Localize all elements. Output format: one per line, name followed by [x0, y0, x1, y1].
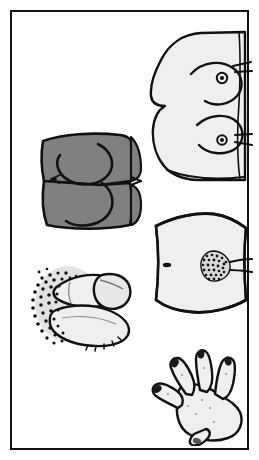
- buttocks-upper-slab: [42, 134, 134, 185]
- scrotum-hair-ticks: [86, 337, 122, 351]
- torso-hem-line: [167, 170, 243, 179]
- lower-breast-contour: [197, 116, 242, 153]
- figure-buttocks: Buttocks, posterior view: [38, 129, 148, 233]
- lower-skin-folds: [235, 134, 252, 145]
- scrotum-crease: [62, 317, 116, 324]
- figure-torso-breasts-label: Female torso, breast profile view: [145, 30, 146, 31]
- hand-finger-middle: [196, 350, 212, 392]
- hand-palm: [177, 384, 242, 440]
- abdomen-bottom-contour: [156, 300, 246, 312]
- pubic-halo: [35, 266, 101, 342]
- inguinal-crease-lines: [230, 259, 252, 272]
- abdomen-left-edge: [156, 226, 158, 300]
- hand-finger-ring: [170, 358, 194, 395]
- figure-hand: Left hand, dorsal view with fingers spre…: [148, 342, 250, 446]
- upper-breast-contour: [191, 63, 242, 105]
- pubic-hair-patch: [201, 251, 230, 281]
- abdomen-body-shape: [156, 214, 246, 313]
- shaft-fold-line: [69, 282, 71, 303]
- gluteal-cleft-lower: [66, 183, 112, 226]
- figure-abdomen-pubis: Lower abdomen with pubic region: [144, 208, 254, 320]
- buttocks-crease-mark: [51, 175, 60, 183]
- buttocks-flank: [131, 137, 141, 225]
- glans: [94, 274, 131, 309]
- figure-abdomen-pubis-label: Lower abdomen with pubic region: [144, 208, 145, 209]
- hand-thumb: [190, 429, 210, 446]
- umbilicus-navel: [163, 263, 171, 267]
- panel-title: Anatomical Illustration Panel: [0, 0, 1, 1]
- panel-frame: Female torso, breast profile view: [10, 10, 249, 450]
- lower-nipple: [217, 135, 227, 145]
- figure-male-genitalia: Male genitalia with pubic hair: [26, 256, 150, 354]
- torso-body-shape: [151, 32, 245, 180]
- penis-shaft: [54, 275, 116, 307]
- scrotum: [50, 306, 129, 347]
- hand-knuckle-marks: [167, 367, 227, 423]
- gluteal-cleft-upper: [57, 144, 112, 184]
- figure-torso-breasts: Female torso, breast profile view: [145, 30, 253, 182]
- abdomen-right-edge: [245, 228, 247, 300]
- torso-lateral-edge: [238, 32, 240, 180]
- glans-ridge: [100, 280, 123, 289]
- figure-panel: Anatomical Illustration Panel Female tor…: [0, 0, 259, 460]
- figure-hand-label: Left hand, dorsal view with fingers spre…: [148, 342, 149, 343]
- upper-nipple: [217, 73, 227, 83]
- hand-fingernails: [151, 349, 233, 445]
- buttocks-separation-notch: [131, 177, 141, 185]
- buttocks-lower-slab: [43, 181, 132, 229]
- hand-finger-index: [215, 358, 235, 399]
- figure-buttocks-label: Buttocks, posterior view: [38, 129, 39, 130]
- upper-skin-folds: [233, 62, 252, 72]
- hand-finger-little: [153, 383, 183, 408]
- pubic-hair-stipple-field: [31, 268, 77, 345]
- figure-male-genitalia-label: Male genitalia with pubic hair: [26, 256, 27, 257]
- abdomen-top-contour: [156, 214, 246, 228]
